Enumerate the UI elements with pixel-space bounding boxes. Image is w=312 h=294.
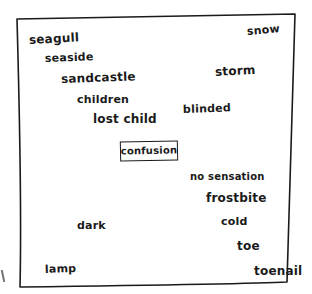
word-sandcastle: sandcastle xyxy=(61,70,136,85)
center-concept-box: confusion xyxy=(120,140,178,161)
word-blinded: blinded xyxy=(183,102,231,115)
word-storm: storm xyxy=(215,64,256,78)
word-lamp: lamp xyxy=(45,263,77,275)
word-frostbite: frostbite xyxy=(206,192,267,204)
word-dark: dark xyxy=(77,220,106,231)
word-toe: toe xyxy=(237,240,260,252)
word-cold: cold xyxy=(221,216,248,227)
word-no-sensation: no sensation xyxy=(190,172,265,182)
word-seaside: seaside xyxy=(45,51,94,64)
word-toenail: toenail xyxy=(254,265,302,277)
word-snow: snow xyxy=(247,23,281,37)
word-confusion: confusion xyxy=(121,145,178,156)
word-seagull: seagull xyxy=(29,31,80,46)
word-lost-child: lost child xyxy=(93,113,157,125)
word-children: children xyxy=(77,94,129,105)
